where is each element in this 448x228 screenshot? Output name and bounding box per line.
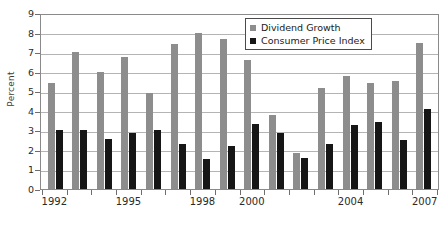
bar-dividend-growth: [343, 76, 350, 189]
bar-consumer-price-index: [351, 125, 358, 189]
bar-consumer-price-index: [277, 133, 284, 189]
y-axis-tick-label: 0: [8, 184, 34, 195]
x-axis-tick-mark: [388, 190, 389, 195]
bar-dividend-growth: [195, 33, 202, 189]
bar-groups: [41, 15, 438, 189]
y-axis-tick-mark: [35, 14, 40, 15]
x-axis-tick-label: 2007: [412, 196, 437, 207]
legend-swatch-icon: [250, 38, 256, 44]
y-axis-tick-mark: [35, 190, 40, 191]
x-axis-tick-mark: [67, 190, 68, 195]
bar-consumer-price-index: [129, 133, 136, 189]
bar-group: [387, 15, 412, 189]
x-axis-tick-mark: [437, 190, 438, 195]
x-axis-tick-label: 1998: [190, 196, 215, 207]
x-axis-tick-mark: [141, 190, 142, 195]
bar-dividend-growth: [392, 81, 399, 189]
y-axis-tick-label: 5: [8, 86, 34, 97]
bar-dividend-growth: [269, 115, 276, 189]
y-axis-tick-label: 2: [8, 145, 34, 156]
bar-consumer-price-index: [228, 146, 235, 189]
x-axis-tick-mark: [289, 190, 290, 195]
x-axis-tick-mark: [215, 190, 216, 195]
x-axis-tick-mark: [338, 190, 339, 195]
x-axis-tick-label: 2004: [338, 196, 363, 207]
x-axis-tick-mark: [165, 190, 166, 195]
x-axis-tick-mark: [412, 190, 413, 195]
x-axis-tick-mark: [314, 190, 315, 195]
bar-dividend-growth: [318, 88, 325, 189]
bar-dividend-growth: [97, 72, 104, 189]
bar-group: [166, 15, 191, 189]
bar-consumer-price-index: [203, 159, 210, 189]
bar-dividend-growth: [171, 44, 178, 189]
y-axis-tick-mark: [35, 151, 40, 152]
y-axis-tick-mark: [35, 92, 40, 93]
bar-consumer-price-index: [375, 122, 382, 189]
bar-consumer-price-index: [424, 109, 431, 189]
y-axis-tick-label: 6: [8, 67, 34, 78]
x-axis-tick-mark: [91, 190, 92, 195]
x-axis-tick-mark: [116, 190, 117, 195]
x-axis: 199219951998200020042007: [40, 190, 439, 224]
y-axis-tick-label: 9: [8, 8, 34, 19]
bar-consumer-price-index: [154, 130, 161, 189]
plot-area: [40, 14, 439, 190]
x-axis-tick-label: 1992: [42, 196, 67, 207]
y-axis-tick-label: 1: [8, 164, 34, 175]
bar-dividend-growth: [416, 43, 423, 189]
y-axis-tick-mark: [35, 112, 40, 113]
legend-swatch-icon: [250, 25, 256, 31]
x-axis-tick-mark: [42, 190, 43, 195]
bar-consumer-price-index: [179, 144, 186, 189]
bar-consumer-price-index: [400, 140, 407, 189]
y-axis-tick-label: 8: [8, 28, 34, 39]
bar-group: [68, 15, 93, 189]
bar-consumer-price-index: [80, 130, 87, 189]
bar-group: [215, 15, 240, 189]
bar-consumer-price-index: [326, 144, 333, 189]
x-axis-tick-mark: [240, 190, 241, 195]
bar-dividend-growth: [220, 39, 227, 189]
bar-dividend-growth: [146, 93, 153, 189]
y-axis-tick-mark: [35, 131, 40, 132]
legend-label: Dividend Growth: [261, 22, 341, 33]
bar-dividend-growth: [72, 52, 79, 189]
legend-item-dividend-growth: Dividend Growth: [250, 22, 365, 33]
bar-consumer-price-index: [301, 158, 308, 189]
y-axis-tick-label: 3: [8, 125, 34, 136]
bar-group: [190, 15, 215, 189]
bar-dividend-growth: [48, 83, 55, 189]
bar-group: [43, 15, 68, 189]
bar-consumer-price-index: [105, 139, 112, 189]
bar-consumer-price-index: [252, 124, 259, 190]
y-axis-tick-mark: [35, 34, 40, 35]
legend-label: Consumer Price Index: [261, 35, 365, 46]
y-axis-tick-label: 7: [8, 47, 34, 58]
x-axis-tick-label: 1995: [116, 196, 141, 207]
x-axis-tick-mark: [264, 190, 265, 195]
y-axis-tick-mark: [35, 53, 40, 54]
bar-group: [92, 15, 117, 189]
x-axis-tick-mark: [363, 190, 364, 195]
bar-group: [141, 15, 166, 189]
bar-dividend-growth: [244, 60, 251, 189]
bar-consumer-price-index: [56, 130, 63, 189]
bar-chart: Percent 199219951998200020042007 Dividen…: [0, 0, 448, 228]
x-axis-tick-label: 2000: [239, 196, 264, 207]
legend-item-consumer-price-index: Consumer Price Index: [250, 35, 365, 46]
chart-legend: Dividend Growth Consumer Price Index: [245, 18, 372, 50]
y-axis-tick-label: 4: [8, 106, 34, 117]
bar-dividend-growth: [121, 57, 128, 189]
y-axis-tick-mark: [35, 170, 40, 171]
bar-dividend-growth: [293, 153, 300, 189]
bar-group: [117, 15, 142, 189]
bar-dividend-growth: [367, 83, 374, 189]
y-axis-tick-mark: [35, 73, 40, 74]
bar-group: [411, 15, 436, 189]
x-axis-tick-mark: [190, 190, 191, 195]
